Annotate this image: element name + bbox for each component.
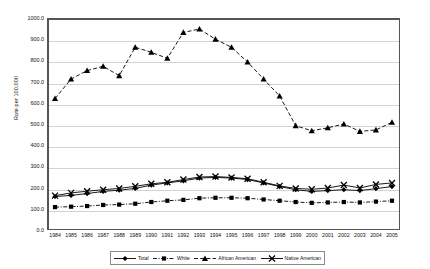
data-point <box>133 202 137 206</box>
x-tick-label: 2003 <box>354 232 366 238</box>
y-tick-label: 1000.0 <box>0 15 44 21</box>
legend-label: African American <box>218 255 256 261</box>
x-tick-label: 1984 <box>49 232 61 238</box>
legend-swatch-diamond-icon <box>114 254 136 263</box>
data-point <box>85 204 89 208</box>
y-tick-label: 200.0 <box>0 185 44 191</box>
data-point <box>165 199 169 203</box>
x-tick-label: 1996 <box>242 232 254 238</box>
data-point <box>293 123 299 129</box>
legend-label: Native American <box>285 255 321 261</box>
data-point <box>164 55 170 61</box>
y-tick-label: 400.0 <box>0 142 44 148</box>
legend-item-african-american[interactable]: African American <box>194 254 256 263</box>
chart-container: Rate per 100,000 1000.0900.0800.0700.060… <box>0 0 430 269</box>
data-point <box>261 76 267 82</box>
data-point <box>213 196 217 200</box>
x-tick-label: 1995 <box>226 232 238 238</box>
series-native-american <box>52 174 395 199</box>
data-point <box>245 196 249 200</box>
data-point <box>294 200 298 204</box>
data-point <box>101 203 105 207</box>
data-point <box>374 199 378 203</box>
data-point <box>196 26 202 32</box>
data-point <box>180 29 186 35</box>
x-tick-label: 1994 <box>210 232 222 238</box>
data-point <box>278 199 282 203</box>
series-layer <box>47 18 400 230</box>
data-point <box>229 196 233 200</box>
y-tick-label: 500.0 <box>0 121 44 127</box>
data-point <box>68 76 74 82</box>
y-tick-label: 0.0 <box>0 227 44 233</box>
series-line <box>55 29 392 131</box>
x-tick-label: 1992 <box>178 232 190 238</box>
x-tick-label: 2002 <box>338 232 350 238</box>
series-total <box>52 175 394 199</box>
x-tick-label: 1985 <box>65 232 77 238</box>
data-point <box>310 201 314 205</box>
data-point <box>228 44 234 50</box>
y-tick-label: 700.0 <box>0 79 44 85</box>
x-axis-tick-labels: 1984198519861987198819891990199119921993… <box>47 232 400 244</box>
y-tick-label: 300.0 <box>0 163 44 169</box>
x-tick-label: 2004 <box>370 232 382 238</box>
legend-swatch-square-icon <box>153 254 175 263</box>
data-point <box>390 199 394 203</box>
data-point <box>342 200 346 204</box>
data-point <box>389 119 395 125</box>
data-point <box>197 196 201 200</box>
y-tick-label: 800.0 <box>0 57 44 63</box>
legend-item-total[interactable]: Total <box>114 254 149 263</box>
x-tick-label: 2005 <box>386 232 398 238</box>
legend-item-native-american[interactable]: Native American <box>261 254 321 263</box>
x-tick-label: 1989 <box>129 232 141 238</box>
x-tick-label: 1993 <box>194 232 206 238</box>
series-african-american <box>52 26 395 134</box>
data-point <box>132 44 138 50</box>
data-point <box>341 121 347 127</box>
data-point <box>181 198 185 202</box>
data-point <box>244 59 250 65</box>
legend-swatch-x-icon <box>261 254 283 263</box>
data-point <box>69 205 73 209</box>
chart-legend: TotalWhiteAfrican AmericanNative America… <box>110 251 325 265</box>
legend-swatch-triangle-icon <box>194 254 216 263</box>
data-point <box>149 200 153 204</box>
data-point <box>117 202 121 206</box>
x-tick-label: 1991 <box>162 232 174 238</box>
data-point <box>326 200 330 204</box>
legend-label: Total <box>138 255 149 261</box>
data-point <box>100 63 106 69</box>
y-tick-label: 900.0 <box>0 36 44 42</box>
x-tick-label: 1999 <box>290 232 302 238</box>
x-tick-label: 1990 <box>146 232 158 238</box>
x-tick-label: 1988 <box>113 232 125 238</box>
x-tick-label: 1987 <box>97 232 109 238</box>
series-white <box>53 196 394 210</box>
y-tick-label: 600.0 <box>0 100 44 106</box>
data-point <box>373 127 379 133</box>
x-tick-label: 2001 <box>322 232 334 238</box>
legend-item-white[interactable]: White <box>153 254 190 263</box>
data-point <box>358 200 362 204</box>
x-tick-label: 1997 <box>258 232 270 238</box>
data-point <box>53 205 57 209</box>
x-tick-label: 2000 <box>306 232 318 238</box>
data-point <box>212 36 218 42</box>
y-tick-label: 100.0 <box>0 206 44 212</box>
data-point <box>262 197 266 201</box>
series-line <box>55 198 392 207</box>
data-point <box>341 187 346 192</box>
legend-label: White <box>177 255 190 261</box>
x-tick-label: 1998 <box>274 232 286 238</box>
x-tick-label: 1986 <box>81 232 93 238</box>
data-point <box>116 73 122 79</box>
